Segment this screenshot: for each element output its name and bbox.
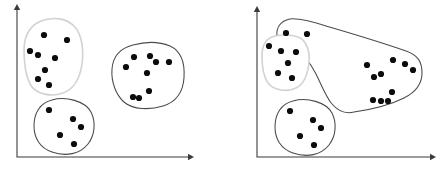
cluster-lower-left-small-data-point: [318, 125, 324, 131]
right-panel-x-axis-arrow: [430, 154, 436, 160]
cluster-merged-large-data-point: [370, 97, 376, 103]
cluster-merged-large-data-point: [371, 74, 377, 80]
cluster-merged-large-data-point: [283, 30, 289, 36]
cluster-upper-left-data-point: [64, 37, 70, 43]
cluster-upper-left-data-point: [27, 48, 33, 54]
cluster-lower-left-small-data-point: [287, 108, 293, 114]
cluster-lower-left-data-point: [70, 116, 76, 122]
cluster-lower-left-small: [275, 100, 335, 156]
cluster-right-data-point: [136, 95, 142, 101]
cluster-upper-left-small-data-point: [278, 48, 284, 54]
cluster-upper-left-data-point: [35, 76, 41, 82]
cluster-upper-left-small-data-point: [289, 75, 295, 81]
cluster-lower-left-data-point: [46, 107, 52, 113]
cluster-upper-left-data-point: [41, 32, 47, 38]
cluster-lower-left-small-data-point: [310, 117, 316, 123]
cluster-right-data-point: [146, 88, 152, 94]
cluster-upper-left-data-point: [42, 67, 48, 73]
cluster-merged-large-data-point: [390, 57, 396, 63]
cluster-right-data-point: [144, 70, 150, 76]
cluster-merged-large-data-point: [378, 71, 384, 77]
cluster-lower-left-small-hull-outline: [275, 100, 335, 156]
cluster-right-data-point: [130, 94, 136, 100]
cluster-merged-large-data-point: [410, 67, 416, 73]
left-panel-x-axis-arrow: [188, 154, 194, 160]
cluster-merged-large-data-point: [304, 31, 310, 37]
cluster-lower-left-data-point: [71, 141, 77, 147]
cluster-lower-left-data-point: [78, 124, 84, 130]
left-panel-y-axis-arrow: [14, 4, 20, 10]
cluster-diagram-figure: [0, 0, 443, 171]
right-panel-y-axis-arrow: [254, 6, 260, 12]
cluster-merged-large-data-point: [389, 89, 395, 95]
cluster-lower-left-small-data-point: [297, 133, 303, 139]
cluster-merged-large-data-point: [385, 98, 391, 104]
cluster-merged-large-data-point: [378, 98, 384, 104]
cluster-upper-left-small-data-point: [275, 70, 281, 76]
cluster-upper-left-small-data-point: [285, 60, 291, 66]
cluster-lower-left-small-data-point: [311, 142, 317, 148]
cluster-upper-left-data-point: [35, 52, 41, 58]
cluster-lower-left-data-point: [57, 132, 63, 138]
cluster-upper-left-small-data-point: [293, 49, 299, 55]
cluster-merged-large-data-point: [402, 61, 408, 67]
cluster-right-data-point: [131, 54, 137, 60]
left-panel: [14, 4, 194, 160]
right-panel: [254, 6, 436, 160]
cluster-lower-left-hull-outline: [34, 99, 94, 155]
cluster-lower-left: [34, 99, 94, 155]
cluster-right-data-point: [166, 59, 172, 65]
cluster-right-data-point: [123, 64, 129, 70]
cluster-right-data-point: [147, 53, 153, 59]
cluster-diagram-canvas: [0, 0, 443, 171]
cluster-upper-left-data-point: [52, 55, 58, 61]
cluster-upper-left-data-point: [46, 82, 52, 88]
cluster-right-data-point: [153, 59, 159, 65]
cluster-upper-left-small-data-point: [266, 43, 272, 49]
cluster-merged-large-data-point: [364, 62, 370, 68]
